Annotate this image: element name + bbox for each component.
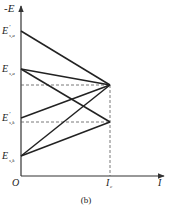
svg-text:c: c [110,184,113,189]
level-label-esa: E s,a [1,63,15,77]
polarization-diagram: -E E ' s,a E s,a E ' s,k E s,k O I c I (… [0,0,173,212]
y-axis-label: -E [4,2,15,14]
figure-caption: (b) [81,195,92,205]
level-label-esk-prime: E ' s,k [1,111,15,126]
svg-text:E: E [1,63,8,74]
x-axis-label: I [157,177,162,188]
svg-text:s,k: s,k [9,120,15,126]
svg-text:E: E [1,150,8,161]
svg-text:': ' [9,24,11,30]
svg-text:s,k: s,k [9,158,15,164]
ic-tick-label: I c [105,177,113,189]
level-label-esk: E s,k [1,150,15,164]
svg-text:s,a: s,a [9,33,15,39]
origin-label: O [12,177,19,188]
svg-text:s,a: s,a [9,71,15,77]
line-esk-lower [21,122,110,156]
line-esk-prime-upper [21,85,110,118]
svg-text:': ' [9,111,11,117]
level-label-esa-prime: E ' s,a [1,24,15,39]
svg-text:E: E [1,112,8,123]
svg-text:E: E [1,25,8,36]
